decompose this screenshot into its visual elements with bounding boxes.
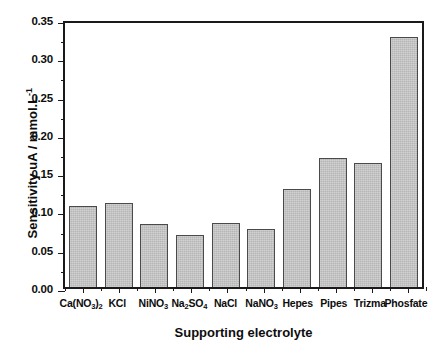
bar	[283, 189, 311, 287]
x-axis-tick	[191, 287, 192, 293]
x-axis-tick	[83, 287, 84, 293]
x-axis-tick-labels: Ca(NO3)2KClNiNO3Na2SO4NaClNaNO3HepesPipe…	[63, 297, 424, 317]
x-axis-tick	[227, 287, 228, 293]
x-axis-tick-label: NaCl	[214, 297, 237, 309]
y-axis-tick	[58, 253, 65, 254]
bar	[319, 158, 347, 287]
bar	[247, 229, 275, 287]
bar	[176, 235, 204, 287]
x-axis-minor-tick	[354, 287, 355, 291]
x-axis-tick-label: Pipes	[320, 297, 347, 309]
chart-figure: 0.000.050.100.150.200.250.300.35 Sensiti…	[0, 0, 442, 355]
x-axis-tick	[372, 287, 373, 293]
x-axis-title: Supporting electrolyte	[63, 325, 424, 340]
y-axis-minor-tick	[61, 157, 65, 158]
x-axis-tick	[264, 287, 265, 293]
plot-area	[63, 21, 424, 289]
y-axis-title: Sensitivity uA / mmol.L-1	[24, 23, 40, 303]
x-axis-tick-label: KCl	[108, 297, 125, 309]
x-axis-minor-tick	[390, 287, 391, 291]
x-axis-minor-tick	[426, 287, 427, 291]
y-axis-tick	[58, 61, 65, 62]
y-axis-tick	[58, 138, 65, 139]
y-axis-tick	[58, 214, 65, 215]
bar	[354, 163, 382, 287]
y-axis-title-text: Sensitivity uA / mmol.L	[25, 96, 40, 239]
x-axis-tick	[119, 287, 120, 293]
y-axis-tick	[58, 176, 65, 177]
y-axis-minor-tick	[61, 234, 65, 235]
x-axis-minor-tick	[209, 287, 210, 291]
x-axis-tick-label: Na2SO4	[171, 297, 207, 309]
bar	[140, 224, 168, 287]
x-axis-minor-tick	[137, 287, 138, 291]
x-axis-tick	[336, 287, 337, 293]
y-axis-title-exponent: -1	[24, 88, 34, 96]
x-axis-tick	[155, 287, 156, 293]
x-axis-tick-label: Trizma	[354, 297, 386, 309]
bar	[69, 206, 97, 287]
x-axis-minor-tick	[101, 287, 102, 291]
x-axis-minor-tick	[282, 287, 283, 291]
x-axis-minor-tick	[173, 287, 174, 291]
x-axis-tick	[300, 287, 301, 293]
y-axis-minor-tick	[61, 42, 65, 43]
bar-series	[65, 23, 422, 287]
x-axis-tick	[408, 287, 409, 293]
y-axis-minor-tick	[61, 80, 65, 81]
x-axis-minor-tick	[246, 287, 247, 291]
x-axis-tick-label: NaNO3	[245, 297, 277, 309]
x-axis-tick-label: Ca(NO3)2	[60, 297, 103, 309]
y-axis-tick	[58, 23, 65, 24]
y-axis-minor-tick	[61, 195, 65, 196]
bar	[212, 223, 240, 287]
y-axis-minor-tick	[61, 119, 65, 120]
y-axis-minor-tick	[61, 272, 65, 273]
x-axis-tick-label: Phosfate	[385, 297, 428, 309]
y-axis-tick	[58, 291, 65, 292]
x-axis-minor-tick	[318, 287, 319, 291]
y-axis-tick	[58, 100, 65, 101]
x-axis-minor-tick	[65, 287, 66, 291]
bar	[105, 203, 133, 287]
x-axis-tick-label: NiNO3	[139, 297, 168, 309]
x-axis-tick-label: Hepes	[282, 297, 313, 309]
bar	[390, 37, 418, 287]
